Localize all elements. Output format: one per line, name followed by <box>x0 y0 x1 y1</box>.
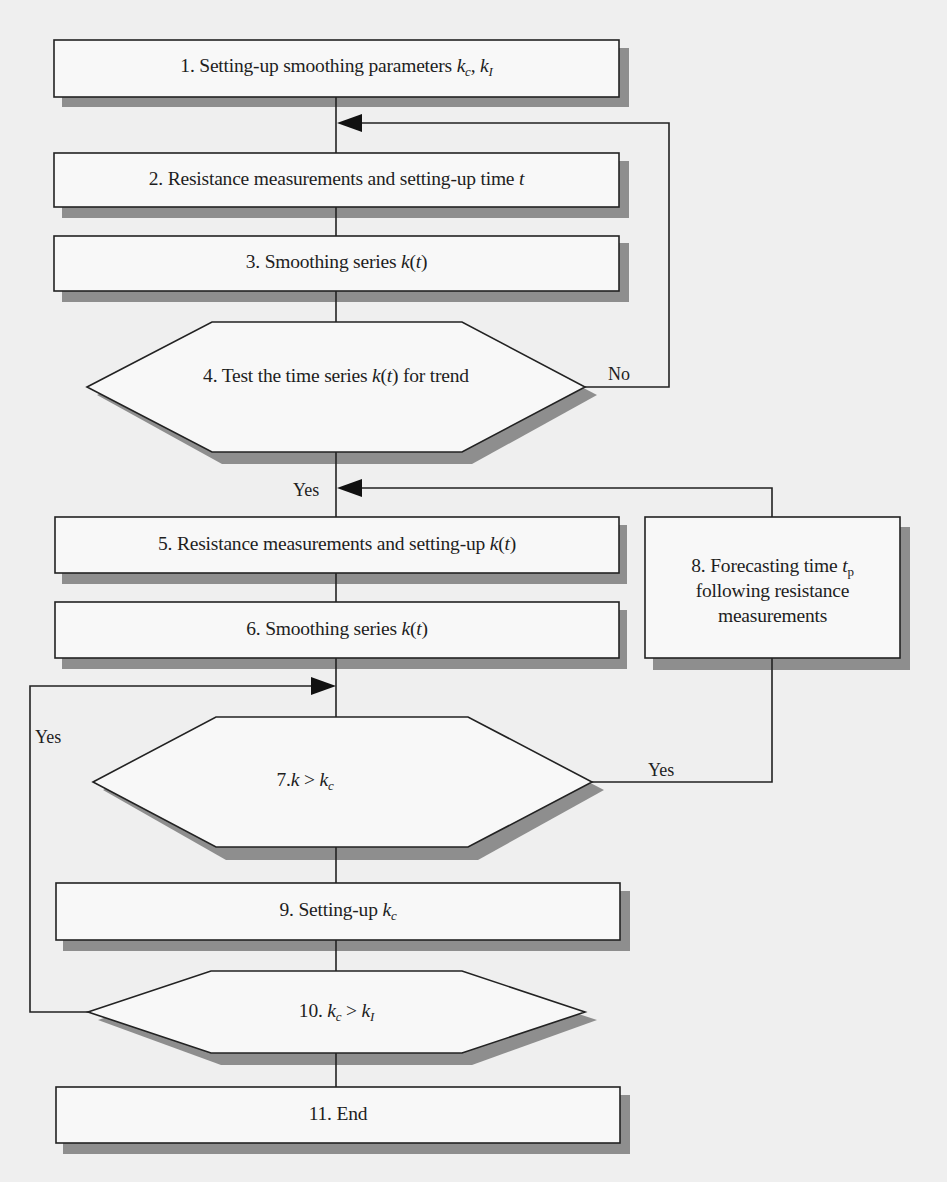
node-10-number: 10. <box>299 1000 323 1021</box>
node-7-var-kc: kc <box>319 769 333 790</box>
node-6-func: k(t) <box>402 618 428 639</box>
node-2-number: 2. <box>149 168 163 189</box>
node-5-func: k(t) <box>490 533 516 554</box>
node-5-text: Resistance measurements and setting-up <box>177 533 485 554</box>
node-9-label: 9. Setting-up kc <box>56 898 620 922</box>
node-7-var-k: k <box>291 769 299 790</box>
node-4-func: k(t) <box>372 365 398 386</box>
node-3-label: 3. Smoothing series k(t) <box>54 250 619 274</box>
node-10-op: > <box>341 1000 361 1021</box>
node-6-number: 6. <box>246 618 260 639</box>
node-1-label: 1. Setting-up smoothing parameters kc, k… <box>54 54 619 78</box>
edge-label-no: No <box>608 364 630 384</box>
edge-label-yes-7: Yes <box>648 760 674 780</box>
edge-7-8-yes <box>592 658 772 782</box>
node-7-number: 7. <box>277 769 291 790</box>
edge-label-yes-10: Yes <box>35 727 61 747</box>
node-11-label: 11. End <box>56 1102 620 1126</box>
node-2-label: 2. Resistance measurements and setting-u… <box>54 167 619 191</box>
node-2-var-t: t <box>519 168 524 189</box>
edge-label-yes-4: Yes <box>293 480 319 500</box>
node-4-label: 4. Test the time series k(t) for trend <box>87 364 585 388</box>
edge-8-5 <box>360 488 772 517</box>
node-11-text: End <box>336 1103 367 1124</box>
node-3-text: Smoothing series <box>265 251 397 272</box>
node-5-number: 5. <box>158 533 172 554</box>
node-10-var-ki: kI <box>362 1000 375 1021</box>
node-4-number: 4. <box>203 365 217 386</box>
node-3-number: 3. <box>246 251 260 272</box>
node-1-number: 1. <box>180 55 194 76</box>
node-1-text: Setting-up smoothing parameters <box>199 55 452 76</box>
node-8-var-tp: tp <box>842 555 854 576</box>
node-3-func: k(t) <box>401 251 427 272</box>
node-4-text-after: for trend <box>403 365 469 386</box>
node-10-var-kc: kc <box>327 1000 341 1021</box>
node-9-var-kc: kc <box>382 899 396 920</box>
node-8-line-1: 8. Forecasting time tp <box>645 553 900 578</box>
node-6-label: 6. Smoothing series k(t) <box>55 617 619 641</box>
arrowhead-left-icon <box>337 479 362 497</box>
node-9-text: Setting-up <box>298 899 377 920</box>
node-10-label: 10. kc > kI <box>88 999 585 1023</box>
node-9-number: 9. <box>280 899 294 920</box>
node-5-label: 5. Resistance measurements and setting-u… <box>55 532 619 556</box>
node-2-text: Resistance measurements and setting-up t… <box>168 168 515 189</box>
arrowhead-right-icon <box>311 677 336 695</box>
arrowhead-left-icon <box>337 114 362 132</box>
node-6-text: Smoothing series <box>265 618 397 639</box>
node-7-op: > <box>299 769 319 790</box>
node-8-line-2: following resistance <box>645 578 900 603</box>
node-1-sep: , <box>471 55 480 76</box>
node-7-label: 7.k > kc <box>260 768 350 792</box>
node-8-label: 8. Forecasting time tp following resista… <box>645 553 900 628</box>
node-8-line-3: measurements <box>645 603 900 628</box>
node-1-var-ki: kI <box>480 55 493 76</box>
node-4-text-before: Test the time series <box>222 365 368 386</box>
node-1-var-kc: kc <box>457 55 471 76</box>
node-11-number: 11. <box>309 1103 332 1124</box>
